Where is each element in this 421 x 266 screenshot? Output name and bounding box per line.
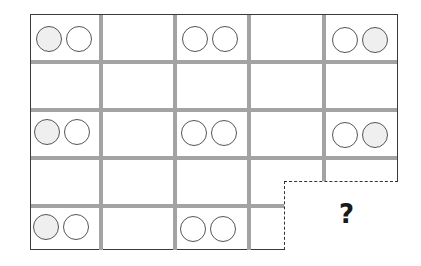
circle-white [332,27,358,53]
circle-gray [33,214,59,240]
cell-r1-c3 [182,26,238,52]
grid-hline-2 [31,108,397,112]
grid-hline-1 [31,60,397,64]
circle-white [66,26,92,52]
circle-white [182,26,208,52]
grid-hline-4 [31,204,284,208]
circle-white [211,120,237,146]
cell-r3-c1 [34,119,90,145]
circle-gray [36,26,62,52]
circle-white [63,214,89,240]
puzzle-stage: ? [0,0,421,266]
cell-r3-c5 [332,122,388,148]
circle-gray [362,122,388,148]
grid-vline-2 [173,15,177,250]
missing-piece-box[interactable]: ? [284,181,398,250]
grid-hline-3 [31,156,397,160]
grid-vline-3 [247,15,251,250]
circle-white [180,216,206,242]
circle-white [64,119,90,145]
grid-vline-1 [99,15,103,250]
cell-r1-c5 [332,27,388,53]
cell-r3-c3 [181,120,237,146]
question-mark-label: ? [339,199,354,229]
circle-gray [34,119,60,145]
circle-white [332,122,358,148]
cell-r1-c1 [36,26,92,52]
circle-gray [362,27,388,53]
circle-white [181,120,207,146]
circle-white [210,216,236,242]
cell-r5-c3 [180,216,236,242]
circle-white [212,26,238,52]
cell-r5-c1 [33,214,89,240]
